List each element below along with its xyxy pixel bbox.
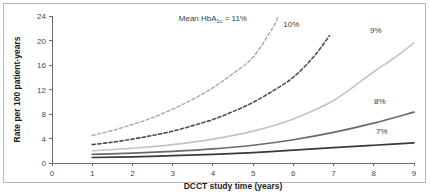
- series-label-7pct: 7%: [376, 127, 388, 136]
- x-tick-label: 8: [372, 169, 377, 178]
- y-tick-label: 4: [42, 135, 47, 144]
- data-series-group: [92, 16, 414, 157]
- y-tick-label: 0: [42, 159, 47, 168]
- series-curve-9pct: [92, 43, 414, 151]
- x-tick-label: 7: [331, 169, 336, 178]
- annotations-group: Mean HbA1c = 11%: [179, 14, 247, 24]
- x-tick-label: 3: [170, 169, 175, 178]
- series-label-8pct: 8%: [374, 97, 386, 106]
- series-label-9pct: 9%: [370, 26, 382, 35]
- series-curve-10pct: [92, 36, 329, 145]
- y-tick-label: 8: [42, 110, 47, 119]
- x-tick-label: 2: [130, 169, 135, 178]
- series-curve-11pct: [92, 16, 278, 135]
- y-tick-label: 12: [37, 86, 46, 95]
- y-axis: 04812162024: [37, 12, 52, 168]
- annotation-suffix: = 11%: [222, 14, 247, 23]
- chart-figure: 04812162024 0123456789 10%9%8%7% Mean Hb…: [0, 0, 430, 194]
- series-label-10pct: 10%: [283, 20, 299, 29]
- chart-plot-area: 04812162024 0123456789 10%9%8%7% Mean Hb…: [0, 0, 430, 194]
- x-tick-label: 4: [211, 169, 216, 178]
- axis-titles-group: DCCT study time (years)Rate per 100 pati…: [12, 36, 283, 191]
- x-tick-label: 5: [251, 169, 256, 178]
- x-axis-title: DCCT study time (years): [184, 181, 283, 191]
- y-tick-label: 24: [37, 12, 46, 21]
- x-tick-label: 6: [291, 169, 296, 178]
- y-axis-title: Rate per 100 patient-years: [12, 36, 22, 142]
- x-axis: 0123456789: [50, 163, 417, 178]
- y-tick-label: 20: [37, 37, 46, 46]
- x-tick-label: 0: [50, 169, 55, 178]
- annotation-prefix: Mean HbA: [179, 14, 217, 23]
- mean-hba1c-annotation: Mean HbA1c = 11%: [179, 14, 247, 24]
- x-tick-label: 9: [412, 169, 417, 178]
- series-labels-group: 10%9%8%7%: [283, 20, 387, 136]
- x-tick-label: 1: [90, 169, 95, 178]
- y-tick-label: 16: [37, 61, 46, 70]
